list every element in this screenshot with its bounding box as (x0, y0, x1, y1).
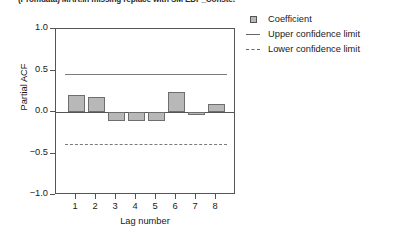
x-tick-label: 4 (124, 201, 146, 211)
x-tick-label: 8 (204, 201, 226, 211)
x-tick-mark (155, 194, 156, 199)
x-tick-label: 3 (104, 201, 126, 211)
solid-line-swatch-icon (246, 34, 260, 35)
bar-lag-4 (128, 112, 145, 121)
bar-lag-1 (68, 95, 85, 112)
bar-lag-3 (108, 112, 125, 121)
x-tick-label: 6 (164, 201, 186, 211)
chart-legend: CoefficientUpper confidence limitLower c… (243, 12, 409, 57)
legend-label: Coefficient (263, 14, 312, 24)
coefficient-swatch-icon (250, 16, 257, 23)
legend-item[interactable]: Lower confidence limit (243, 42, 409, 56)
x-tick-label: 5 (144, 201, 166, 211)
x-tick-mark (75, 194, 76, 199)
bar-lag-5 (148, 112, 165, 121)
legend-item[interactable]: Coefficient (243, 12, 409, 26)
legend-label: Lower confidence limit (263, 44, 360, 54)
y-axis-label: Partial ACF (19, 27, 29, 147)
y-tick-label: −0.5 (14, 147, 48, 157)
x-tick-label: 7 (184, 201, 206, 211)
x-axis-label: Lag number (55, 216, 235, 226)
bar-lag-7 (188, 112, 205, 115)
x-tick-mark (135, 194, 136, 199)
plot-area (55, 28, 235, 194)
x-tick-mark (95, 194, 96, 199)
y-tick-label: 0.5 (14, 64, 48, 74)
y-tick-label: −1.0 (14, 188, 48, 198)
x-tick-mark (195, 194, 196, 199)
x-tick-mark (115, 194, 116, 199)
legend-item[interactable]: Upper confidence limit (243, 27, 409, 41)
x-tick-mark (175, 194, 176, 199)
dashed-line-swatch-icon (246, 49, 260, 50)
bar-lag-8 (208, 104, 225, 112)
legend-label: Upper confidence limit (263, 29, 360, 39)
x-tick-label: 1 (64, 201, 86, 211)
bar-lag-6 (168, 92, 185, 112)
x-tick-mark (215, 194, 216, 199)
y-tick-mark (50, 194, 55, 195)
y-tick-label: 0.0 (14, 105, 48, 115)
chart-title: (Promdata) MAR.ln missing replace with S… (18, 0, 235, 4)
bar-lag-2 (88, 97, 105, 112)
y-tick-label: 1.0 (14, 22, 48, 32)
x-tick-label: 2 (84, 201, 106, 211)
bars-layer (56, 29, 234, 193)
